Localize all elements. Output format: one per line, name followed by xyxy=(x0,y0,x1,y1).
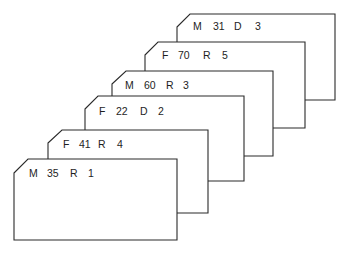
card-count: 1 xyxy=(88,167,94,179)
card-status: R xyxy=(70,167,78,179)
card-age: 41 xyxy=(79,138,91,150)
card: M 35 R 1 xyxy=(14,159,177,240)
card-stack-diagram: M 31 D 3 F 70 R 5 M 60 R 3 F 22 D 2 F 41… xyxy=(0,0,350,256)
card-status: D xyxy=(234,20,242,32)
card-outline xyxy=(14,159,177,240)
card-sex: M xyxy=(29,167,38,179)
card-sex: M xyxy=(125,79,134,91)
card-age: 70 xyxy=(178,49,190,61)
card-age: 35 xyxy=(47,167,59,179)
card-status: D xyxy=(140,105,148,117)
card-count: 3 xyxy=(183,79,189,91)
card-status: R xyxy=(203,49,211,61)
card-count: 4 xyxy=(117,138,123,150)
card-age: 31 xyxy=(213,20,225,32)
card-sex: F xyxy=(162,49,168,61)
card-age: 22 xyxy=(116,105,128,117)
card-sex: M xyxy=(193,20,202,32)
card-count: 5 xyxy=(222,49,228,61)
card-status: R xyxy=(98,138,106,150)
card-sex: F xyxy=(63,138,69,150)
card-count: 2 xyxy=(158,105,164,117)
card-status: R xyxy=(166,79,174,91)
card-count: 3 xyxy=(255,20,261,32)
card-age: 60 xyxy=(144,79,156,91)
card-sex: F xyxy=(99,105,105,117)
